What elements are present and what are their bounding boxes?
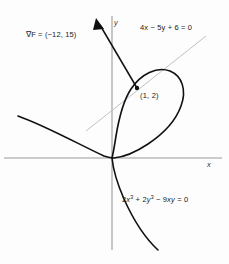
curve-equation-label: 2x3 + 2y3 − 9xy = 0 xyxy=(122,196,188,204)
tangent-line-equation-label: 4x − 5y + 6 = 0 xyxy=(140,24,192,32)
math-figure xyxy=(0,0,229,264)
x-axis-label: x xyxy=(207,161,211,169)
y-axis-label: y xyxy=(114,19,118,27)
point-coordinate-label: (1, 2) xyxy=(140,92,159,100)
point-marker xyxy=(135,86,139,90)
gradient-vector-label: ∇F = (−12, 15) xyxy=(26,31,76,39)
figure-background xyxy=(0,0,229,264)
